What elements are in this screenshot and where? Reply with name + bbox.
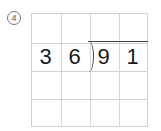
dividend-digit-ones: 1 [118, 43, 147, 71]
dividend-digit-tens: 9 [89, 43, 118, 71]
divisor-digit-tens: 3 [31, 43, 60, 71]
problem-number-badge: 4 [7, 11, 21, 25]
grid-line [32, 99, 147, 100]
